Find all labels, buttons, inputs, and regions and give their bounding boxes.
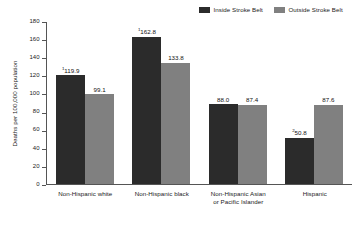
- y-axis-tick-label: 180: [29, 18, 39, 24]
- legend-swatch-outside-stroke-belt: [274, 7, 285, 13]
- y-axis-tick: 180: [42, 22, 46, 23]
- y-axis-tick: 160: [42, 40, 46, 41]
- bar-group: 1119.999.1: [47, 22, 123, 184]
- bar[interactable]: [161, 63, 190, 184]
- legend-swatch-inside-stroke-belt: [199, 7, 210, 13]
- legend-item-outside-stroke-belt: Outside Stroke Belt: [274, 6, 343, 13]
- bar[interactable]: [56, 75, 85, 184]
- x-axis-category-label: Non-Hispanic white: [47, 190, 124, 207]
- bar-value-label: 99.1: [94, 87, 106, 93]
- plot-area: 020406080100120140160180 1119.999.11162.…: [46, 22, 352, 185]
- y-axis-tick: 80: [42, 113, 46, 114]
- y-axis-tick-label: 0: [36, 181, 39, 187]
- category-label-line: Non-Hispanic black: [124, 190, 201, 198]
- bar-value-label: 250.8: [292, 130, 307, 136]
- bar-slot: 1162.8: [132, 22, 161, 184]
- bar-value-label: 1162.8: [138, 29, 156, 35]
- bar-slot: 87.6: [314, 22, 343, 184]
- bar[interactable]: [314, 105, 343, 184]
- legend-item-inside-stroke-belt: Inside Stroke Belt: [199, 6, 263, 13]
- bar-group: 88.087.4: [200, 22, 276, 184]
- bar-group: 250.887.6: [276, 22, 352, 184]
- y-axis-tick: 120: [42, 76, 46, 77]
- y-axis-tick-label: 100: [29, 90, 39, 96]
- bar-slot: 99.1: [85, 22, 114, 184]
- bar-chart: Inside Stroke Belt Outside Stroke Belt D…: [0, 0, 363, 227]
- bar-slot: 88.0: [209, 22, 238, 184]
- bar-value-label: 88.0: [217, 97, 229, 103]
- category-label-line: Non-Hispanic Asian: [200, 190, 277, 198]
- x-axis-category-labels: Non-Hispanic whiteNon-Hispanic blackNon-…: [47, 190, 353, 207]
- y-axis-tick-label: 160: [29, 36, 39, 42]
- y-axis-tick: 20: [42, 167, 46, 168]
- x-axis-category-label: Hispanic: [277, 190, 354, 207]
- y-axis-tick: 100: [42, 94, 46, 95]
- y-axis-tick-label: 20: [33, 163, 40, 169]
- y-axis-tick: 0: [42, 185, 46, 186]
- bar-value-label: 87.4: [246, 97, 258, 103]
- bar-group: 1162.8133.8: [123, 22, 199, 184]
- chart-legend: Inside Stroke Belt Outside Stroke Belt: [199, 6, 343, 13]
- x-axis-line: [46, 184, 352, 185]
- bar[interactable]: [238, 105, 267, 184]
- legend-label-inside-stroke-belt: Inside Stroke Belt: [214, 6, 263, 13]
- category-label-line: Non-Hispanic white: [47, 190, 124, 198]
- category-label-line: Hispanic: [277, 190, 354, 198]
- category-label-line: or Pacific Islander: [200, 198, 277, 206]
- y-axis-tick: 40: [42, 149, 46, 150]
- bar[interactable]: [209, 104, 238, 184]
- x-axis-category-label: Non-Hispanic black: [124, 190, 201, 207]
- y-axis-tick-label: 140: [29, 54, 39, 60]
- y-axis-tick: 60: [42, 131, 46, 132]
- y-axis-tick-label: 80: [33, 108, 40, 114]
- bar[interactable]: [132, 37, 161, 184]
- y-axis-tick-label: 60: [33, 126, 40, 132]
- bar-slot: 87.4: [238, 22, 267, 184]
- bar-value-label: 1119.9: [62, 68, 79, 74]
- bar[interactable]: [85, 94, 114, 184]
- x-axis-category-label: Non-Hispanic Asianor Pacific Islander: [200, 190, 277, 207]
- bar-value-label: 87.6: [322, 97, 334, 103]
- legend-label-outside-stroke-belt: Outside Stroke Belt: [288, 6, 342, 13]
- y-axis-tick-label: 120: [29, 72, 39, 78]
- bar-slot: 1119.9: [56, 22, 85, 184]
- bar-groups: 1119.999.11162.8133.888.087.4250.887.6: [47, 22, 352, 184]
- y-axis-title: Deaths per 100,000 population: [9, 22, 19, 185]
- y-axis-tick: 140: [42, 58, 46, 59]
- bar[interactable]: [285, 138, 314, 184]
- bar-slot: 250.8: [285, 22, 314, 184]
- y-axis-tick-label: 40: [33, 145, 40, 151]
- bar-value-label: 133.8: [168, 55, 183, 61]
- bar-slot: 133.8: [161, 22, 190, 184]
